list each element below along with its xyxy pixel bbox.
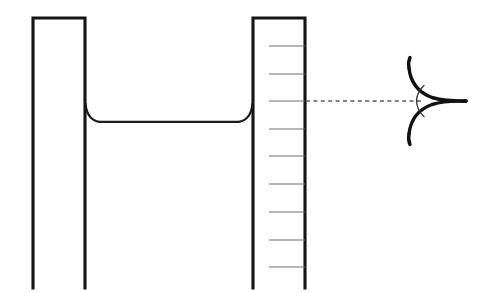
left-capillary-tube (33, 18, 85, 288)
right-capillary-tube (253, 18, 305, 288)
detail-upper-wall-tail (409, 58, 410, 69)
contact-angle-detail (409, 58, 466, 145)
liquid-surface-group (86, 104, 253, 122)
right-tube-outline (253, 18, 305, 288)
liquid-meniscus-surface (86, 104, 253, 122)
detail-lower-wall-tail (409, 134, 410, 145)
capillary-diagram-svg (0, 0, 489, 293)
capillary-figure-root (0, 0, 489, 293)
graduation-scale (269, 46, 305, 267)
left-tube-outline (33, 18, 85, 288)
